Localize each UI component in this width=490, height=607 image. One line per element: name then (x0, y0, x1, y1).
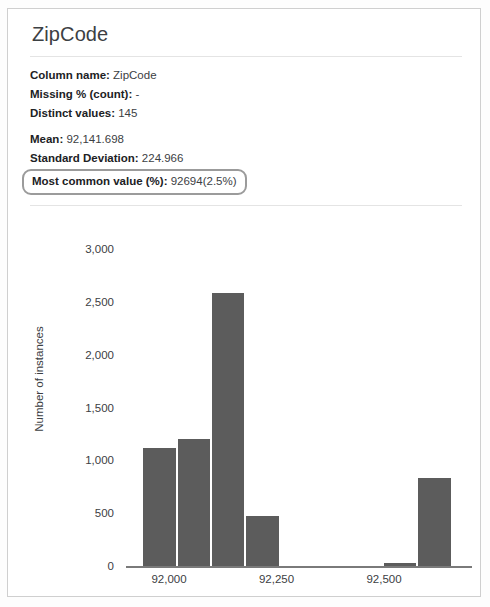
plot-area (126, 249, 470, 566)
stat-label: Mean: (30, 133, 63, 145)
y-tick-label: 1,000 (52, 454, 114, 466)
x-axis-title: ZipCode (126, 595, 472, 597)
divider-bottom (30, 205, 462, 206)
x-tick-label: 92,250 (232, 573, 322, 585)
x-tick-label: 92,000 (124, 573, 214, 585)
y-tick-label: 3,000 (52, 243, 114, 255)
statistics-list: Column name: ZipCodeMissing % (count): -… (30, 66, 470, 195)
stat-row: Missing % (count): - (30, 85, 470, 104)
stat-value: 92694(2.5%) (171, 175, 237, 187)
stat-row-highlighted: Most common value (%): 92694(2.5%) (22, 169, 247, 195)
y-tick-label: 2,000 (52, 349, 114, 361)
y-axis-title: Number of instances (33, 304, 45, 454)
stat-group-gap (30, 123, 470, 130)
stat-value: ZipCode (113, 69, 156, 81)
stat-label: Missing % (count): (30, 88, 132, 100)
histogram-bar (143, 448, 175, 566)
x-axis-line (126, 566, 472, 568)
histogram-bar (212, 293, 244, 566)
x-tick-label: 92,500 (339, 573, 429, 585)
y-tick-label: 1,500 (52, 402, 114, 414)
page-title: ZipCode (32, 23, 108, 46)
y-tick-label: 0 (52, 560, 114, 572)
stat-row: Column name: ZipCode (30, 66, 470, 85)
stat-label: Column name: (30, 69, 110, 81)
histogram-bar (246, 516, 278, 566)
divider-top (30, 56, 462, 57)
stat-value: - (135, 88, 139, 100)
screenshot-root: ZipCode Column name: ZipCodeMissing % (c… (0, 0, 490, 607)
stat-row: Distinct values: 145 (30, 104, 470, 123)
stat-label: Most common value (%): (32, 175, 167, 187)
histogram-chart: Number of instances 05001,0001,5002,0002… (8, 221, 480, 596)
column-summary-card: ZipCode Column name: ZipCodeMissing % (c… (7, 8, 481, 597)
stat-row: Mean: 92,141.698 (30, 130, 470, 149)
stat-row: Standard Deviation: 224.966 (30, 149, 470, 168)
histogram-bar (178, 439, 210, 566)
y-tick-label: 2,500 (52, 296, 114, 308)
histogram-bar (418, 478, 450, 566)
stat-value: 92,141.698 (66, 133, 124, 145)
stat-label: Standard Deviation: (30, 152, 139, 164)
y-tick-label: 500 (52, 507, 114, 519)
stat-value: 224.966 (142, 152, 184, 164)
stat-value: 145 (118, 107, 137, 119)
stat-label: Distinct values: (30, 107, 115, 119)
